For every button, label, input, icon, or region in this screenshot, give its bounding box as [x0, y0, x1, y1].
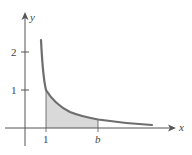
tick-label-y2: 2 — [11, 46, 17, 58]
y-axis-label: y — [29, 11, 35, 23]
tick-label-xb: b — [95, 133, 101, 145]
shaded-area — [46, 90, 98, 128]
x-axis-label: x — [178, 121, 184, 133]
tick-label-y1: 1 — [11, 84, 17, 96]
tick-label-x1: 1 — [43, 133, 49, 145]
chart-canvas: y x 2 1 1 b — [0, 0, 192, 155]
